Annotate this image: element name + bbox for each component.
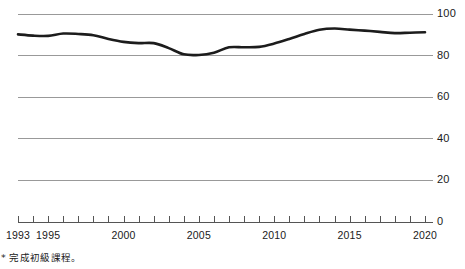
y-axis-label: 100 <box>437 8 456 19</box>
gridlines <box>18 14 433 180</box>
x-axis-label: 2015 <box>338 230 362 241</box>
x-axis-label: 1993 <box>6 230 30 241</box>
x-axis-label: 1995 <box>36 230 60 241</box>
x-axis-label: 2020 <box>413 230 437 241</box>
y-axis-label: 0 <box>437 216 443 227</box>
y-axis-label: 60 <box>437 91 450 102</box>
chart-footnote: * 完成初級課程。 <box>1 250 81 264</box>
data-line-completion-rate <box>18 29 425 56</box>
line-chart: 100806040200 199319952000200520102015202… <box>0 0 465 269</box>
y-axis-label: 40 <box>437 133 450 144</box>
x-axis-label: 2000 <box>111 230 135 241</box>
y-axis-label: 20 <box>437 174 450 185</box>
y-axis-label: 80 <box>437 50 450 61</box>
chart-plot-area <box>0 0 465 240</box>
x-axis-label: 2010 <box>262 230 286 241</box>
x-axis-ticks <box>19 216 426 222</box>
x-axis-label: 2005 <box>187 230 211 241</box>
